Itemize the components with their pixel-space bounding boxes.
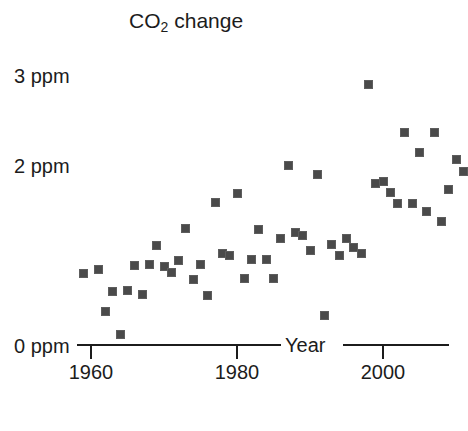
scatter-point <box>233 189 242 198</box>
scatter-point <box>313 170 322 179</box>
scatter-point <box>138 290 147 299</box>
scatter-point <box>130 261 139 270</box>
scatter-point <box>269 274 278 283</box>
x-axis-tick-2000 <box>382 346 384 359</box>
x-axis-line-left-segment <box>77 344 281 346</box>
scatter-point <box>203 291 212 300</box>
scatter-point <box>459 167 468 176</box>
x-axis-line-right-segment <box>343 344 449 346</box>
chart-title: CO2 change <box>0 8 372 40</box>
scatter-point <box>386 188 395 197</box>
scatter-point <box>167 268 176 277</box>
scatter-point <box>145 260 154 269</box>
scatter-point <box>225 251 234 260</box>
scatter-point <box>335 251 344 260</box>
x-axis-tick-1980 <box>236 346 238 359</box>
scatter-point <box>430 128 439 137</box>
x-axis-tick-1960 <box>90 346 92 359</box>
scatter-point <box>379 177 388 186</box>
scatter-point <box>262 255 271 264</box>
scatter-point <box>357 249 366 258</box>
scatter-point <box>181 224 190 233</box>
scatter-point <box>174 256 183 265</box>
scatter-point <box>108 287 117 296</box>
scatter-point <box>437 217 446 226</box>
scatter-point <box>189 275 198 284</box>
scatter-point <box>101 307 110 316</box>
scatter-point <box>342 234 351 243</box>
scatter-point <box>320 311 329 320</box>
scatter-point <box>393 199 402 208</box>
scatter-point <box>276 234 285 243</box>
x-axis-tick-label-1980: 1980 <box>197 360 277 384</box>
chart-title-post: change <box>168 9 243 32</box>
x-axis-tick-label-2000: 2000 <box>343 360 423 384</box>
scatter-point <box>196 260 205 269</box>
scatter-point <box>306 246 315 255</box>
scatter-point <box>116 330 125 339</box>
scatter-point <box>400 128 409 137</box>
scatter-point <box>254 225 263 234</box>
scatter-point <box>298 231 307 240</box>
scatter-point <box>444 185 453 194</box>
scatter-point <box>123 286 132 295</box>
scatter-point <box>284 161 293 170</box>
scatter-point <box>247 255 256 264</box>
scatter-point <box>408 199 417 208</box>
scatter-point <box>79 269 88 278</box>
scatter-point <box>422 207 431 216</box>
x-axis-title: Year <box>285 334 325 356</box>
scatter-point <box>152 241 161 250</box>
scatter-point <box>211 198 220 207</box>
scatter-point <box>452 155 461 164</box>
scatter-point <box>94 265 103 274</box>
chart-title-pre: CO <box>129 9 161 32</box>
scatter-point <box>327 240 336 249</box>
x-axis-tick-label-1960: 1960 <box>51 360 131 384</box>
scatter-point <box>240 274 249 283</box>
scatter-point <box>364 80 373 89</box>
plot-area <box>77 40 449 345</box>
scatter-point <box>415 148 424 157</box>
